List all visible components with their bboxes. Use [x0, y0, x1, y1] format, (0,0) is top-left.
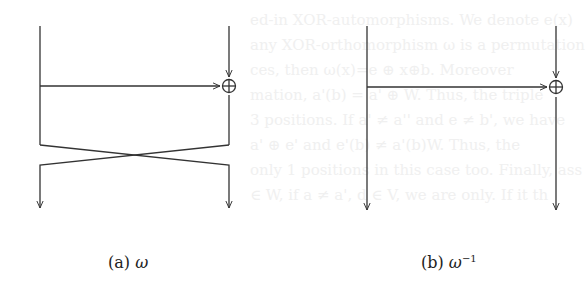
caption-symbol: ω [449, 253, 462, 272]
xor-icon [550, 81, 563, 94]
caption-b: (b) ω−1 [421, 253, 477, 272]
figure-b-omega-inverse [367, 26, 563, 210]
caption-symbol: ω [135, 253, 148, 272]
figure-a-omega [40, 26, 236, 208]
cross-wire-right-to-left [40, 145, 229, 208]
xor-icon [223, 80, 236, 93]
caption-superscript: −1 [462, 253, 477, 264]
caption-label: (a) [108, 253, 130, 272]
caption-label: (b) [421, 253, 444, 272]
diagrams-canvas [0, 0, 588, 298]
caption-a: (a) ω [108, 253, 148, 272]
